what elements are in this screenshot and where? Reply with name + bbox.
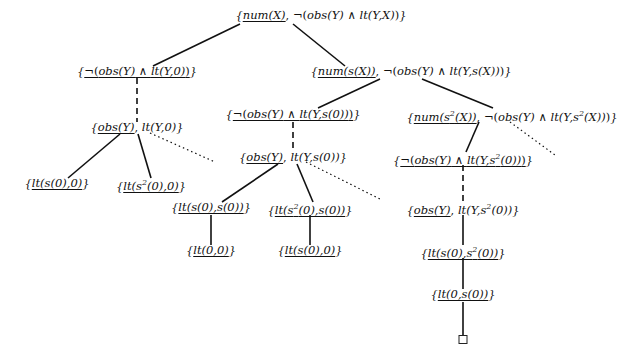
tree-node-n1: {¬(obs(Y) ∧ lt(Y,0))}	[77, 64, 197, 78]
tree-node-n1a2: {lt(s2(0),0)}	[116, 176, 186, 193]
tree-edges	[0, 0, 644, 355]
tree-node-n2a1: {obs(Y), lt(Y,s(0))}	[239, 150, 347, 164]
tree-node-n2b: {num(s2(X)), ¬(obs(Y) ∧ lt(Y,s2(X)))}	[406, 107, 617, 124]
tree-node-n2b1a1a: {lt(0,s(0))}	[430, 287, 495, 301]
tree-node-n2a1b: {lt(s2(0),s(0))}	[267, 200, 352, 217]
tree-node-n2a1a: {lt(s(0),s(0))}	[171, 200, 251, 214]
tree-node-n2b1a1: {lt(s(0),s2(0))}	[420, 243, 505, 260]
tree-node-n2: {num(s(X)), ¬(obs(Y) ∧ lt(Y,s(X)))}	[311, 64, 512, 78]
tree-node-root: {num(X), ¬(obs(Y) ∧ lt(Y,X))}	[235, 8, 406, 22]
tree-node-n1a: {obs(Y), lt(Y,0)}	[90, 120, 183, 134]
success-leaf-box	[459, 335, 468, 344]
tree-node-n2b1: {¬(obs(Y) ∧ lt(Y,s2(0)))}	[393, 150, 533, 167]
tree-node-n2a1b1: {lt(s(0),0)}	[277, 243, 342, 257]
tree-node-n2b1a: {obs(Y), lt(Y,s2(0))}	[406, 200, 519, 217]
tree-node-n1a1: {lt(s(0),0)}	[24, 176, 89, 190]
tree-node-n2a1a1: {lt(0,0)}	[186, 243, 236, 257]
tree-node-n2a: {¬(obs(Y) ∧ lt(Y,s(0)))}	[225, 107, 360, 121]
